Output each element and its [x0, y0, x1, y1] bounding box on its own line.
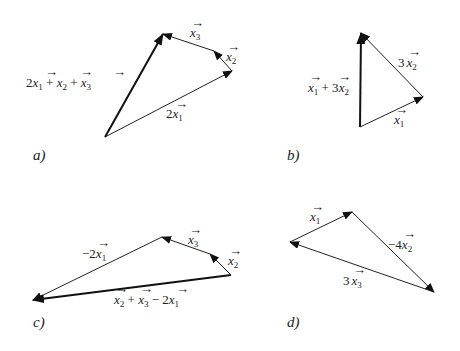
diagram-b: x1 + 3x2 → → 3x2 → x1 → b) — [287, 33, 423, 164]
vector-x1-arrow — [360, 97, 423, 127]
arrow-accent: → — [403, 226, 416, 241]
vector-sum-arrow — [360, 33, 361, 127]
arrow-accent: → — [229, 243, 242, 258]
vector-x3-arrow — [163, 34, 214, 51]
panel-label-c: c) — [33, 314, 45, 331]
arrow-accent: → — [309, 69, 322, 84]
arrow-accent: → — [140, 281, 153, 296]
arrow-accent: → — [113, 64, 126, 79]
vector-neg4x2-arrow — [352, 212, 434, 292]
arrow-accent: → — [408, 44, 421, 59]
arrow-accent: → — [115, 281, 128, 296]
arrow-accent: → — [80, 64, 93, 79]
arrow-accent: → — [227, 39, 240, 54]
diagram-d: x1 → −4x2 → 3x3 → d) — [287, 199, 434, 331]
arrow-accent: → — [338, 69, 351, 84]
panel-label-a: a) — [33, 147, 46, 164]
vector-x1-arrow — [290, 212, 352, 242]
arrow-accent: → — [189, 222, 202, 237]
diagram-c: −2x1 → x3 → x2 → x2 + x3 − 2x1 → → → c) — [33, 222, 242, 331]
panel-label-b: b) — [287, 147, 300, 164]
arrow-accent: → — [97, 235, 110, 250]
arrow-accent: → — [176, 281, 189, 296]
arrow-accent: → — [175, 96, 188, 111]
arrow-accent: → — [395, 102, 408, 117]
vector-x3-arrow — [162, 237, 210, 254]
panel-label-d: d) — [287, 314, 300, 331]
arrow-accent: → — [45, 64, 58, 79]
diagram-a: 2x1 + x2 + x3 → → → 2x1 → x2 → x3 → a) — [26, 15, 240, 164]
arrow-accent: → — [311, 199, 324, 214]
arrow-accent: → — [191, 15, 204, 30]
vector-diagrams: 2x1 + x2 + x3 → → → 2x1 → x2 → x3 → a) x… — [0, 0, 460, 351]
arrow-accent: → — [353, 262, 366, 277]
